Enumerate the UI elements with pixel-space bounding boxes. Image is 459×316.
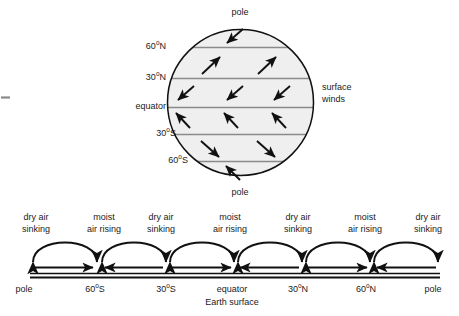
globe-svg [0,0,459,316]
arc-hadley-cell-south [170,243,234,263]
earth-surface-caption: Earth surface [205,297,259,308]
air-label-dry-sinking-3: dry air sinking [284,212,312,235]
air-label-moist-rising-3: moist air rising [348,212,382,235]
axis-label-equator: equator [217,284,248,295]
axis-equator-value: equator [217,284,248,294]
surface-winds-label: surface winds [322,82,352,105]
lat-30n-hemi: N [160,72,167,82]
arc-polar-cell-north [374,243,438,263]
globe-pole-bottom-label: pole [231,187,248,198]
diagram-canvas: pole pole 60oN 30oN equator 30oS 60oS su… [0,0,459,316]
arc-hadley-cell-north [238,243,302,263]
axis-30s-value: 30 [156,284,166,294]
lat-30n-value: 30 [146,72,156,82]
axis-label-pole-north: pole [424,284,441,295]
lat-60s-value: 60 [168,155,178,165]
axis-label-60n: 60oN [356,284,376,295]
axis-label-pole-south: pole [15,284,32,295]
globe-lat-label-30s: 30oS [156,128,176,139]
axis-60n-value: 60 [356,284,366,294]
axis-pole-n-value: pole [424,284,441,294]
globe-lat-label-60n: 60oN [146,41,166,52]
axis-label-60s: 60oS [85,284,105,295]
globe-lat-label-equator: equator [135,101,166,112]
axis-label-30s: 30oS [156,284,176,295]
air-label-dry-sinking-2: dry air sinking [147,212,175,235]
lat-30s-value: 30 [156,128,166,138]
lat-equator-value: equator [135,101,166,111]
globe-lat-label-60s: 60oS [168,155,188,166]
globe-pole-top-label: pole [231,7,248,18]
axis-30n-hemi: N [302,284,309,294]
axis-60s-value: 60 [85,284,95,294]
circulation-arcs [33,243,438,263]
air-label-moist-rising-1: moist air rising [87,212,121,235]
earth-surface-line [30,274,440,278]
arc-ferrel-cell-south [102,243,166,263]
air-label-moist-rising-2: moist air rising [213,212,247,235]
axis-30s-hemi: S [170,284,176,294]
lat-60s-hemi: S [182,155,188,165]
lat-60n-hemi: N [160,41,167,51]
arc-polar-cell-south [33,243,97,263]
lat-30s-hemi: S [170,128,176,138]
cross-section-svg [30,243,440,278]
globe-lat-label-30n: 30oN [146,72,166,83]
axis-60s-hemi: S [99,284,105,294]
axis-label-30n: 30oN [288,284,308,295]
air-label-dry-sinking-1: dry air sinking [22,212,50,235]
axis-pole-s-value: pole [15,284,32,294]
axis-30n-value: 30 [288,284,298,294]
axis-60n-hemi: N [370,284,377,294]
air-label-dry-sinking-4: dry air sinking [414,212,442,235]
arc-ferrel-cell-north [306,243,370,263]
lat-60n-value: 60 [146,41,156,51]
